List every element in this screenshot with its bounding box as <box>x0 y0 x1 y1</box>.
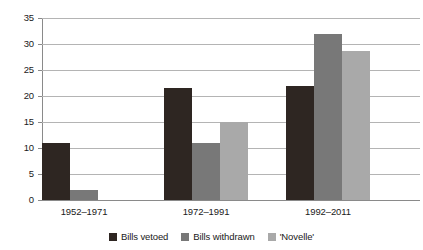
bar <box>70 190 98 200</box>
legend-label: Bills vetoed <box>121 231 168 242</box>
bar <box>192 143 220 200</box>
plot-area <box>42 18 420 200</box>
legend-label: 'Novelle' <box>280 231 314 242</box>
gridline <box>42 44 420 45</box>
legend-swatch-icon <box>181 233 189 241</box>
x-axis-label: 1952–1971 <box>34 206 134 217</box>
legend-item[interactable]: Bills withdrawn <box>181 231 254 242</box>
y-axis-tick-label: 20 <box>0 90 34 101</box>
bar <box>220 122 248 200</box>
y-axis-tick-label: 30 <box>0 38 34 49</box>
gridline <box>42 200 420 201</box>
bar <box>164 88 192 200</box>
x-axis-label: 1972–1991 <box>156 206 256 217</box>
y-axis-tick-label: 5 <box>0 168 34 179</box>
legend-label: Bills withdrawn <box>193 231 254 242</box>
y-axis-tick-label: 25 <box>0 64 34 75</box>
legend-swatch-icon <box>109 233 117 241</box>
bar <box>314 34 342 200</box>
y-axis-tick-label: 10 <box>0 142 34 153</box>
bar <box>42 143 70 200</box>
chart-legend: Bills vetoedBills withdrawn'Novelle' <box>0 231 423 242</box>
legend-swatch-icon <box>268 233 276 241</box>
bar-chart: 05101520253035 1952–19711972–19911992–20… <box>0 0 423 250</box>
y-axis-tick-label: 15 <box>0 116 34 127</box>
legend-item[interactable]: Bills vetoed <box>109 231 168 242</box>
y-axis-tick-label: 35 <box>0 12 34 23</box>
bar <box>342 51 370 200</box>
x-axis-label: 1992–2011 <box>278 206 378 217</box>
gridline <box>42 18 420 19</box>
legend-item[interactable]: 'Novelle' <box>268 231 314 242</box>
bar <box>286 86 314 200</box>
y-axis-tick-label: 0 <box>0 194 34 205</box>
